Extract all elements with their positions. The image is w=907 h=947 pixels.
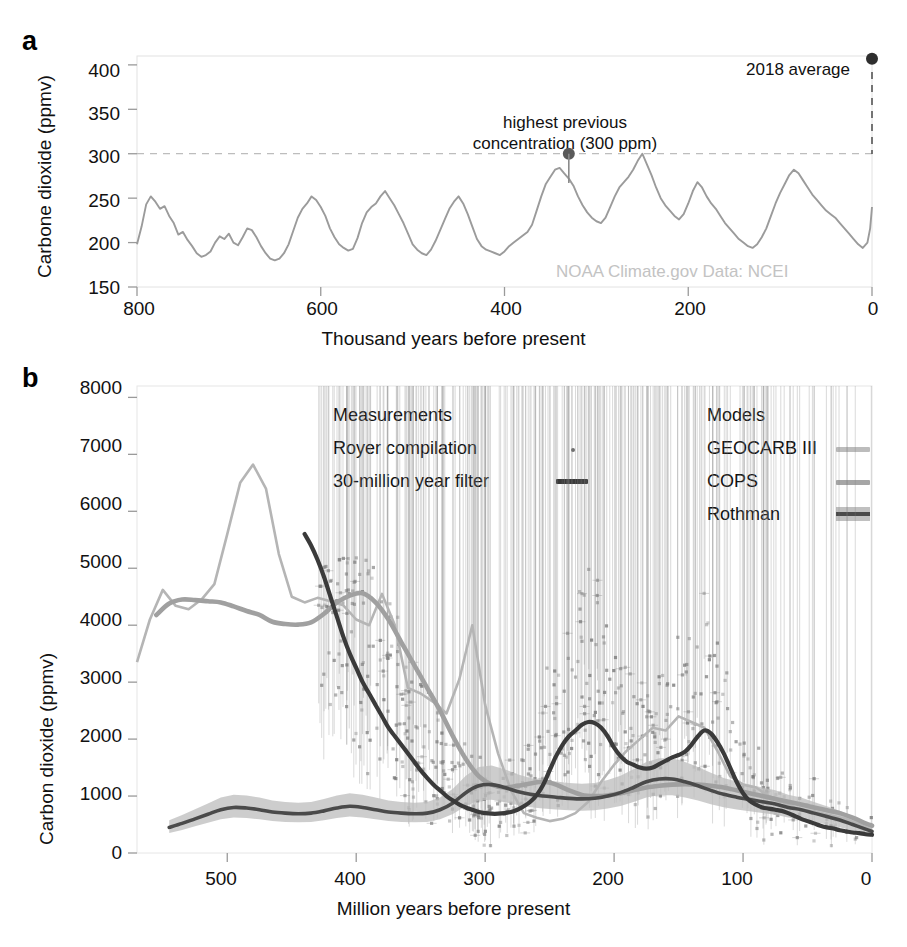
panel-a-marker-2018-average [866,53,878,65]
panel-b: b Carbon dioxide (ppmv) 8000 7000 6000 5… [0,355,907,947]
royer-compilation-scatter [314,386,873,847]
panel-b-plot [0,355,907,947]
panel-a-plot [0,0,907,360]
panel-a: a Carbone dioxide (ppmv) 400 350 300 250… [0,0,907,360]
ice-core-co2-curve [137,154,872,261]
